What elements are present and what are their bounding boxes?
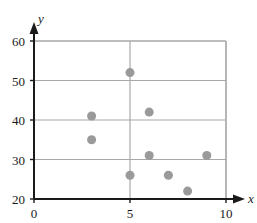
x-tick-label-5: 5 <box>119 207 141 220</box>
y-tick-label-30: 30 <box>3 154 25 167</box>
scatter-plot-figure: y x 60 50 40 30 20 0 5 10 <box>0 0 257 223</box>
x-tick-label-0: 0 <box>23 207 45 220</box>
y-axis-title: y <box>38 12 44 25</box>
plot-canvas <box>0 0 257 223</box>
y-tick-label-50: 50 <box>3 75 25 88</box>
y-tick-label-40: 40 <box>3 114 25 127</box>
y-tick-label-60: 60 <box>3 35 25 48</box>
plot-axes <box>30 22 246 204</box>
x-tick-label-10: 10 <box>215 207 237 220</box>
x-axis-title: x <box>248 192 254 205</box>
y-tick-label-20: 20 <box>3 193 25 206</box>
data-points <box>87 68 211 196</box>
